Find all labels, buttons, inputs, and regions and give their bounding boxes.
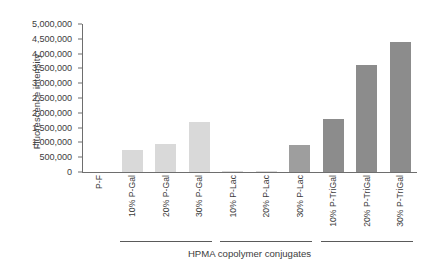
y-axis-ticks: 0500,0001,000,0001,500,0002,000,0002,500… bbox=[0, 0, 78, 190]
bar bbox=[390, 42, 411, 172]
group-bracket bbox=[120, 241, 212, 242]
x-tick-label: 30% P-Lac bbox=[295, 175, 305, 218]
y-tick-label: 4,500,000 bbox=[32, 34, 72, 44]
bar-chart: Fluorescence intensity 0500,0001,000,000… bbox=[0, 0, 425, 270]
y-tick-label: 1,500,000 bbox=[32, 123, 72, 133]
group-bracket bbox=[321, 241, 413, 242]
x-tick-label: 30% P-TriGal bbox=[395, 175, 405, 227]
x-tick-label: 20% P-Lac bbox=[261, 175, 271, 218]
y-tick-label: 3,000,000 bbox=[32, 78, 72, 88]
group-bracket bbox=[220, 241, 312, 242]
x-tick-label: 20% P-Gal bbox=[161, 175, 171, 217]
x-axis-caption: HPMA copolymer conjugates bbox=[82, 248, 417, 259]
y-tick-label: 0 bbox=[67, 167, 72, 177]
bar bbox=[356, 65, 377, 172]
bar bbox=[323, 119, 344, 172]
bar bbox=[122, 150, 143, 172]
y-tick-label: 3,500,000 bbox=[32, 63, 72, 73]
x-tick-label: 30% P-Gal bbox=[194, 175, 204, 217]
x-tick-label: P-F bbox=[94, 175, 104, 189]
bar bbox=[189, 122, 210, 172]
y-tick-label: 5,000,000 bbox=[32, 19, 72, 29]
y-tick-label: 4,000,000 bbox=[32, 49, 72, 59]
y-tick-label: 2,000,000 bbox=[32, 108, 72, 118]
bar bbox=[155, 144, 176, 172]
x-tick-label: 20% P-TriGal bbox=[362, 175, 372, 227]
x-tick-label: 10% P-Lac bbox=[228, 175, 238, 218]
plot-area bbox=[82, 24, 417, 172]
y-tick-label: 1,000,000 bbox=[32, 137, 72, 147]
x-tick-label: 10% P-TriGal bbox=[328, 175, 338, 227]
y-tick-label: 2,500,000 bbox=[32, 93, 72, 103]
bar bbox=[289, 145, 310, 172]
y-tick-label: 500,000 bbox=[39, 152, 72, 162]
x-axis-labels: P-F10% P-Gal20% P-Gal30% P-Gal10% P-Lac2… bbox=[82, 172, 417, 232]
x-tick-label: 10% P-Gal bbox=[127, 175, 137, 217]
